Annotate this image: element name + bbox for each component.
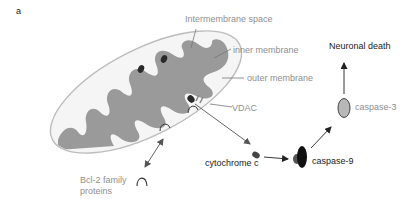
mitochondrion [33,6,259,178]
vdac-label: VDAC [232,103,258,113]
cytochrome-c-label: cytochrome c [205,158,259,168]
bcl2-interaction-arrow [145,139,163,167]
caspase-9-icon [297,146,307,168]
neuronal-death-label: Neuronal death [329,41,391,51]
bcl2-label-line2: proteins [80,186,113,196]
outer-membrane-label: outer membrane [247,73,313,83]
inner-membrane-label: inner membrane [233,45,299,55]
panel-label: a [16,6,21,16]
vdac-leader-line [210,104,232,107]
bcl2-family-icon [137,178,147,186]
caspase-9-label: caspase-9 [312,156,354,166]
caspase-3-icon [338,99,350,118]
caspase-3-label: caspase-3 [355,102,397,112]
cytc-to-caspase9-arrow [264,157,288,159]
apoptosis-pathway-diagram: a Intermembrane space inner membrane out… [0,0,417,207]
intermembrane-space-label: Intermembrane space [185,14,273,24]
bcl2-label-line1: Bcl-2 family [80,175,127,185]
caspase9-to-caspase3-arrow [311,127,331,148]
